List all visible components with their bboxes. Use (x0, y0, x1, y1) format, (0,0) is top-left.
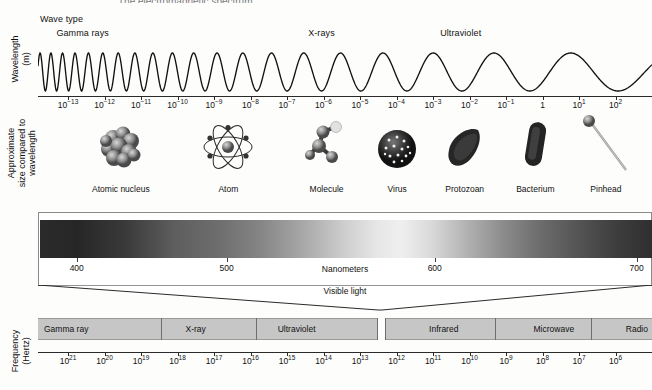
frequency-axis-tick-label: 1015 (279, 356, 296, 366)
frequency-band-ultraviolet[interactable]: Ultraviolet (256, 318, 377, 340)
protozoan-icon (442, 124, 488, 174)
frequency-axis-tick-label: 1018 (169, 356, 186, 366)
atomic-nucleus-icon (98, 124, 144, 174)
size-axis-title-line3: wavelength (27, 130, 37, 176)
frequency-axis-tick-label: 109 (499, 356, 512, 366)
virus-icon (376, 128, 418, 174)
nanometer-tick (227, 258, 228, 262)
frequency-axis-tick-label: 1012 (388, 356, 405, 366)
frequency-axis-tick-label: 1013 (352, 356, 369, 366)
frequency-band-divider (385, 318, 386, 340)
frequency-band-gamma-ray[interactable]: Gamma ray (38, 318, 161, 340)
atom-caption: Atom (218, 184, 238, 194)
size-comparison-row: Atomic nucleusAtomMoleculeVirusProtozoan… (38, 116, 652, 194)
frequency-axis: 1021102010191018101710161015101410131012… (38, 352, 652, 366)
wave-type-header: Wave type (40, 14, 83, 24)
virus-caption: Virus (388, 184, 407, 194)
frequency-axis-tick-label: 1010 (461, 356, 478, 366)
frequency-axis-tick-label: 1014 (315, 356, 332, 366)
frequency-band-radio[interactable]: Radio (591, 318, 652, 340)
size-axis-title-line2: size compared to (17, 119, 27, 188)
size-axis-title-line1: Approximate (6, 128, 16, 179)
frequency-band-divider (256, 318, 257, 340)
frequency-band-divider (591, 318, 592, 340)
nanometer-tick (77, 258, 78, 262)
wave-illustration-row (38, 34, 652, 96)
frequency-band-label: X-ray (186, 324, 206, 334)
electromagnetic-spectrum-figure: The electromagnetic spectrum Wavelength … (0, 0, 652, 390)
nanometer-axis-label: Nanometers (322, 264, 368, 274)
frequency-axis-tick-label: 107 (572, 356, 585, 366)
wavelength-axis-tick-label: 10−7 (279, 100, 296, 110)
visible-spectrum-panel: 400500600700 Nanometers Visible light (38, 212, 652, 298)
frequency-band-panel: Gamma rayX-rayUltravioletInfraredMicrowa… (38, 318, 652, 384)
wavelength-axis-tick-label: 10−6 (315, 100, 332, 110)
wavelength-axis-line (38, 96, 652, 97)
frequency-axis-tick-label: 1020 (96, 356, 113, 366)
frequency-axis-tick-label: 106 (609, 356, 622, 366)
frequency-band-label: Gamma ray (44, 324, 88, 334)
frequency-band-x-ray[interactable]: X-ray (161, 318, 256, 340)
atomic-nucleus-caption: Atomic nucleus (92, 184, 150, 194)
visible-spectrum-frame: 400500600700 Nanometers (38, 212, 652, 286)
wavelength-axis-title-line1: Wavelength (10, 35, 20, 82)
wavelength-axis-tick-label: 10−9 (206, 100, 223, 110)
frequency-band-label: Radio (626, 324, 648, 334)
frequency-band-divider (495, 318, 496, 340)
wavelength-axis-tick-label: 10−5 (352, 100, 369, 110)
frequency-band-strip: Gamma rayX-rayUltravioletInfraredMicrowa… (38, 318, 652, 340)
wavelength-axis-title-line2: (m) (21, 52, 31, 66)
bacterium-caption: Bacterium (516, 184, 554, 194)
bacterium-icon (515, 118, 555, 174)
protozoan-caption: Protozoan (445, 184, 484, 194)
nanometer-tick-label: 400 (70, 263, 84, 273)
frequency-axis-tick-label: 1019 (133, 356, 150, 366)
frequency-axis-tick-label: 1011 (425, 356, 441, 366)
wavelength-axis-tick-label: 101 (572, 100, 585, 110)
frequency-band-label: Infrared (429, 324, 458, 334)
atom-icon (202, 124, 254, 174)
frequency-band-divider (377, 318, 378, 340)
wavelength-axis-title: Wavelength (m) (10, 22, 31, 96)
wavelength-axis-tick-label: 10−4 (388, 100, 405, 110)
pinhead-caption: Pinhead (590, 184, 621, 194)
frequency-axis-tick-label: 1017 (206, 356, 223, 366)
figure-title: The electromagnetic spectrum (118, 0, 253, 3)
frequency-axis-tick-label: 1016 (242, 356, 259, 366)
visible-light-caption: Visible light (324, 286, 367, 296)
molecule-caption: Molecule (310, 184, 344, 194)
nanometer-tick-label: 700 (630, 263, 644, 273)
wavelength-axis-tick-label: 102 (609, 100, 622, 110)
nanometer-tick (435, 258, 436, 262)
frequency-axis-tick-label: 108 (536, 356, 549, 366)
wavelength-axis-tick-label: 1 (540, 100, 545, 110)
frequency-band-infrared[interactable]: Infrared (385, 318, 496, 340)
frequency-axis-line (38, 352, 652, 353)
frequency-band-label: Ultraviolet (278, 324, 316, 334)
wavelength-axis-tick-label: 10−11 (131, 100, 151, 110)
nanometer-tick-label: 600 (428, 263, 442, 273)
frequency-axis-title-line2: (Hertz) (21, 337, 31, 365)
visible-spectrum-gradient-bar (40, 220, 652, 258)
nanometer-tick (637, 258, 638, 262)
frequency-band-divider (161, 318, 162, 340)
frequency-axis-tick-label: 1021 (60, 356, 77, 366)
frequency-axis-title: Frequency (Hertz) (10, 318, 31, 384)
wavelength-axis-tick-label: 10−12 (94, 100, 115, 110)
wavelength-axis-tick-label: 10−2 (461, 100, 478, 110)
wavelength-axis-tick-label: 10−1 (498, 100, 515, 110)
frequency-axis-title-line1: Frequency (10, 330, 20, 373)
sine-wave-graphic (38, 46, 652, 98)
wavelength-axis-tick-label: 10−3 (425, 100, 442, 110)
frequency-band-label: Microwave (533, 324, 574, 334)
wavelength-axis-tick-label: 10−10 (167, 100, 188, 110)
frequency-band-microwave[interactable]: Microwave (495, 318, 590, 340)
wavelength-axis-tick-label: 10−8 (242, 100, 259, 110)
size-axis-title: Approximate size compared to wavelength (6, 110, 38, 196)
molecule-icon (305, 120, 349, 174)
wavelength-axis-tick-label: 10−13 (58, 100, 79, 110)
nanometer-tick-label: 500 (220, 263, 234, 273)
pinhead-icon (580, 114, 632, 176)
wavelength-axis: 10−1310−1210−1110−1010−910−810−710−610−5… (38, 96, 652, 110)
